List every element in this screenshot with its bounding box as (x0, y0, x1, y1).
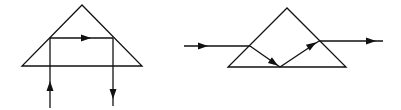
arrowhead-icon (110, 89, 117, 99)
arrowhead-icon (81, 35, 91, 42)
internal-ray (50, 35, 113, 42)
refracted-ray-down (250, 46, 280, 69)
incident-ray (47, 38, 54, 108)
right-angle-prism-retroreflection (22, 5, 142, 108)
exit-ray (319, 38, 383, 45)
prism-triangle (228, 8, 346, 67)
reflected-ray-up (280, 39, 319, 67)
arrowhead-icon (366, 38, 376, 45)
arrowhead-icon (198, 43, 208, 50)
dove-prism-path (184, 8, 383, 69)
exit-ray (110, 38, 117, 106)
arrowhead-icon (47, 81, 54, 91)
incident-ray (184, 43, 250, 50)
optics-diagram-canvas (0, 0, 401, 110)
